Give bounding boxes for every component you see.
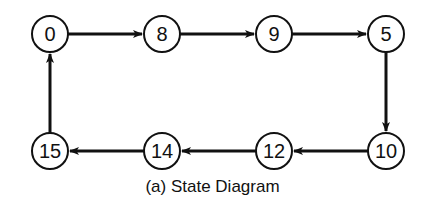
state-node-10: 10	[368, 133, 404, 169]
state-node-0: 0	[32, 16, 68, 52]
state-node-14: 14	[144, 133, 180, 169]
node-label: 12	[263, 140, 285, 162]
state-node-15: 15	[32, 133, 68, 169]
node-label: 9	[268, 23, 279, 45]
node-label: 8	[156, 23, 167, 45]
node-label: 5	[380, 23, 391, 45]
node-label: 14	[151, 140, 173, 162]
state-node-5: 5	[368, 16, 404, 52]
node-label: 15	[39, 140, 61, 162]
edges	[50, 34, 386, 151]
state-node-8: 8	[144, 16, 180, 52]
diagram-caption: (a) State Diagram	[0, 177, 425, 197]
node-label: 10	[375, 140, 397, 162]
state-node-9: 9	[256, 16, 292, 52]
nodes: 089510121415	[32, 16, 404, 169]
state-node-12: 12	[256, 133, 292, 169]
node-label: 0	[44, 23, 55, 45]
